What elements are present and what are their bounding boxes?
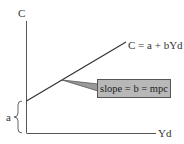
y-axis-label: C <box>18 8 25 19</box>
diagram-canvas <box>0 0 184 144</box>
slope-callout: slope = b = mpc <box>97 79 171 98</box>
intercept-brace <box>14 101 22 133</box>
line-equation-label: C = a + bYd <box>128 40 183 51</box>
intercept-label: a <box>6 112 11 123</box>
callout-pointer <box>62 80 98 91</box>
x-axis-label: Yd <box>158 128 171 139</box>
